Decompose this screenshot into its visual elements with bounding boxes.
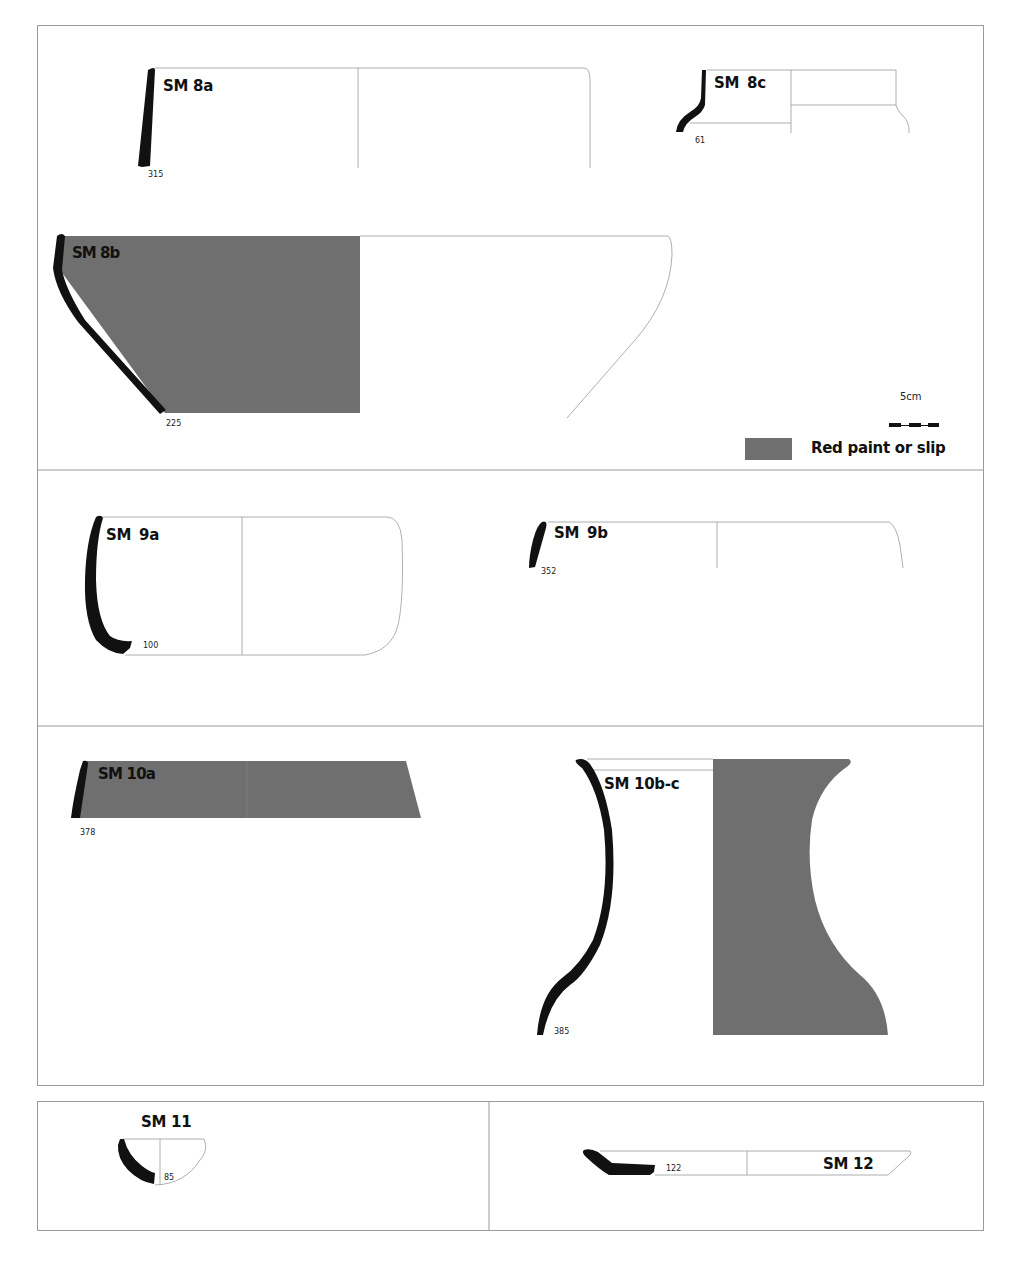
number-sm-8c: 61 bbox=[695, 136, 705, 145]
vessel-sm-11 bbox=[118, 1139, 206, 1185]
label-sm-9a: SM 9a bbox=[106, 526, 159, 544]
number-sm-12: 122 bbox=[666, 1164, 681, 1173]
number-sm-9a: 100 bbox=[143, 641, 158, 650]
vessel-sm-8b bbox=[53, 234, 672, 418]
legend-swatch-red-paint bbox=[745, 438, 792, 460]
label-sm-8a: SM 8a bbox=[163, 77, 213, 95]
label-sm-9b: SM 9b bbox=[554, 524, 608, 542]
label-sm-11: SM 11 bbox=[141, 1113, 191, 1131]
scale-bar bbox=[889, 423, 939, 427]
scale-bar-label: 5cm bbox=[900, 391, 922, 402]
label-sm-10a: SM 10a bbox=[98, 765, 155, 783]
number-sm-8a: 315 bbox=[148, 170, 163, 179]
number-sm-10a: 378 bbox=[80, 828, 95, 837]
number-sm-9b: 352 bbox=[541, 567, 556, 576]
pottery-drawings bbox=[0, 0, 1013, 1265]
number-sm-10b-c: 385 bbox=[554, 1027, 569, 1036]
legend-label: Red paint or slip bbox=[811, 439, 946, 457]
label-sm-10b-c: SM 10b-c bbox=[604, 775, 679, 793]
label-sm-8c: SM 8c bbox=[714, 74, 766, 92]
number-sm-8b: 225 bbox=[166, 419, 181, 428]
label-sm-8b: SM 8b bbox=[72, 244, 119, 262]
label-sm-12: SM 12 bbox=[823, 1155, 873, 1173]
vessel-sm-10b-c bbox=[537, 759, 888, 1035]
vessel-sm-8c bbox=[676, 70, 909, 133]
number-sm-11: 85 bbox=[164, 1173, 174, 1182]
